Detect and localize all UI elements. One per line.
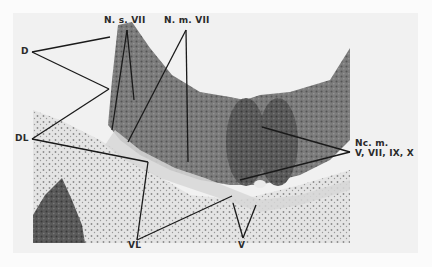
label-ventral: V [238, 240, 245, 250]
label-nucleus-motor-line1: Nc. m. [355, 138, 388, 148]
label-dorsolateral: DL [15, 133, 29, 143]
floor-plate-lumen [254, 180, 266, 188]
label-ventrolateral: VL [128, 240, 141, 250]
micrograph [0, 0, 432, 267]
label-nucleus-motor-line2: V, VII, IX, X [355, 148, 414, 158]
basal-plate-right [258, 98, 298, 186]
label-nucleus-motor-vii: N. m. VII [164, 15, 209, 25]
label-dorsal: D [21, 46, 29, 56]
label-nucleus-sensory-vii: N. s. VII [104, 15, 145, 25]
